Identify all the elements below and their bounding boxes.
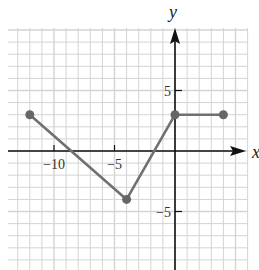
x-tick-label: −5 xyxy=(107,157,122,172)
y-axis-label: y xyxy=(167,2,177,22)
grid-lines xyxy=(8,28,248,270)
y-tick-label: 5 xyxy=(164,84,171,99)
x-axis-label: x xyxy=(251,142,259,162)
y-tick-label: −5 xyxy=(156,205,171,220)
data-point xyxy=(25,110,34,119)
data-point xyxy=(171,110,180,119)
x-tick-label: −10 xyxy=(43,157,65,172)
data-point xyxy=(122,195,131,204)
data-point xyxy=(219,110,228,119)
function-graph: −10−55−5 x y xyxy=(0,0,259,270)
